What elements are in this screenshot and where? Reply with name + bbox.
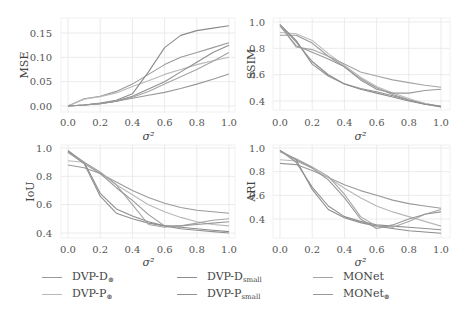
legend-label: DVP-Psmall (207, 287, 260, 301)
x-tick-label: 0.8 (401, 244, 417, 255)
chart-canvas: 0.00.20.40.60.81.00.000.050.100.15MSEσ²0… (0, 0, 470, 270)
y-axis-label: IoU (24, 181, 37, 201)
y-tick-label: 1.0 (249, 143, 265, 154)
legend-label: DVP-P⊛ (72, 287, 112, 301)
y-tick-label: 0.4 (249, 214, 265, 225)
x-tick-label: 0.6 (157, 244, 173, 255)
y-tick-label: 0.8 (36, 171, 52, 182)
legend-item-dvp-d-star: DVP-D⊛ (42, 270, 114, 284)
x-axis-label: σ² (355, 130, 367, 143)
legend-item-dvp-p-small: DVP-Psmall (177, 287, 260, 301)
x-tick-label: 0.4 (124, 244, 140, 255)
legend-swatch (313, 294, 333, 295)
legend-swatch (177, 277, 197, 278)
legend-label: DVP-Dsmall (207, 270, 262, 284)
legend-swatch (42, 277, 62, 278)
x-tick-label: 0.8 (189, 117, 205, 128)
y-tick-label: 0.10 (30, 52, 52, 63)
y-axis-label: SSIM (245, 49, 258, 80)
x-tick-label: 0.6 (157, 117, 173, 128)
y-tick-label: 0.05 (30, 76, 52, 87)
plot-area (273, 18, 450, 110)
legend-label: MONet⊛ (343, 287, 390, 301)
y-axis-label: MSE (18, 52, 31, 79)
legend-swatch (313, 277, 333, 278)
y-tick-label: 0.15 (30, 28, 52, 39)
x-tick-label: 0.0 (60, 244, 76, 255)
legend-item-monet-star: MONet⊛ (313, 287, 390, 301)
x-tick-label: 1.0 (221, 244, 237, 255)
x-tick-label: 0.6 (369, 244, 385, 255)
x-tick-label: 0.8 (401, 117, 417, 128)
x-tick-label: 0.0 (60, 117, 76, 128)
panel-ssim: 0.00.20.40.60.81.00.40.60.81.0SSIMσ² (245, 17, 450, 144)
x-tick-label: 0.2 (304, 244, 320, 255)
x-tick-label: 0.4 (336, 244, 352, 255)
legend-label: MONet (343, 270, 384, 284)
x-tick-label: 1.0 (433, 244, 449, 255)
legend-item-dvp-p-star: DVP-P⊛ (42, 287, 112, 301)
x-tick-label: 1.0 (221, 117, 237, 128)
y-tick-label: 0.8 (249, 166, 265, 177)
legend-item-monet: MONet (313, 270, 384, 284)
x-tick-label: 0.2 (304, 117, 320, 128)
x-tick-label: 0.0 (272, 117, 288, 128)
y-axis-label: ARI (245, 181, 258, 203)
y-tick-label: 1.0 (36, 143, 52, 154)
legend: DVP-D⊛ DVP-P⊛ DVP-Dsmall DVP-Psmall MONe… (0, 270, 470, 310)
y-tick-label: 0.4 (36, 228, 52, 239)
x-axis-label: σ² (143, 130, 155, 143)
y-tick-label: 1.0 (249, 17, 265, 28)
x-tick-label: 0.2 (92, 117, 108, 128)
x-tick-label: 0.6 (369, 117, 385, 128)
x-tick-label: 0.2 (92, 244, 108, 255)
x-tick-label: 0.0 (272, 244, 288, 255)
y-tick-label: 0.4 (249, 96, 265, 107)
panel-iou: 0.00.20.40.60.81.00.40.60.81.0IoUσ² (24, 143, 237, 270)
panel-mse: 0.00.20.40.60.81.00.000.050.100.15MSEσ² (18, 18, 237, 143)
panel-ari: 0.00.20.40.60.81.00.40.60.81.0ARIσ² (245, 143, 450, 270)
legend-swatch (177, 294, 197, 295)
x-tick-label: 0.4 (336, 117, 352, 128)
x-axis-label: σ² (143, 256, 155, 269)
x-tick-label: 1.0 (433, 117, 449, 128)
legend-swatch (42, 294, 62, 295)
legend-label: DVP-D⊛ (72, 270, 114, 284)
x-axis-label: σ² (355, 256, 367, 269)
y-tick-label: 0.6 (36, 199, 52, 210)
plot-area (273, 145, 450, 238)
x-tick-label: 0.4 (124, 117, 140, 128)
x-tick-label: 0.8 (189, 244, 205, 255)
legend-item-dvp-d-small: DVP-Dsmall (177, 270, 262, 284)
y-tick-label: 0.00 (30, 101, 52, 112)
